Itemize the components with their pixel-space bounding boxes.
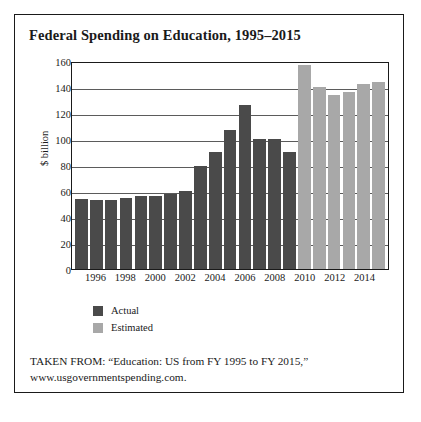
legend-label: Actual [111,305,139,316]
x-tick-label: 2010 [294,272,315,283]
bar-series [72,63,388,269]
chart-title: Federal Spending on Education, 1995–2015 [29,27,301,44]
bar [328,95,341,269]
y-tick-label: 20 [31,239,71,250]
figure-panel: Federal Spending on Education, 1995–2015… [14,14,404,393]
y-tick-label: 120 [31,109,71,120]
x-tick-label: 2002 [175,272,196,283]
bar [105,200,118,269]
x-tick-label: 2008 [264,272,285,283]
y-tick-label: 80 [31,161,71,172]
bar [194,166,207,269]
plot-area: 020406080100120140160 [71,62,389,270]
x-tick-label: 2000 [145,272,166,283]
bar [313,87,326,269]
source-note: TAKEN FROM: “Education: US from FY 1995 … [30,353,390,385]
bar [253,139,266,269]
bar [343,92,356,269]
legend-item: Actual [93,304,153,317]
chart-legend: ActualEstimated [93,304,153,338]
y-tick-label: 140 [31,83,71,94]
x-axis-ticks: 1996199820002002200420062008201020122014 [71,272,389,288]
bar [372,82,385,269]
bar [268,139,281,269]
legend-swatch-icon [93,323,103,333]
legend-item: Estimated [93,321,153,334]
plot-frame [71,62,389,270]
bar [164,194,177,269]
bar [135,196,148,269]
x-tick-label: 1996 [85,272,106,283]
x-tick-label: 2006 [234,272,255,283]
bar [224,130,237,269]
legend-label: Estimated [111,322,153,333]
y-tick-label: 40 [31,213,71,224]
bar [90,200,103,269]
x-tick-label: 1998 [115,272,136,283]
bar [209,152,222,269]
bar [239,105,252,269]
bar [120,198,133,270]
bar [283,152,296,269]
bar [179,191,192,269]
bar [298,65,311,269]
y-tick-label: 60 [31,187,71,198]
bar [357,84,370,269]
bar [75,199,88,269]
y-tick-label: 160 [31,57,71,68]
x-tick-label: 2004 [205,272,226,283]
legend-swatch-icon [93,306,103,316]
x-tick-label: 2012 [324,272,345,283]
y-tick-label: 100 [31,135,71,146]
bar [149,196,162,269]
x-tick-label: 2014 [354,272,375,283]
y-tick-label: 0 [31,265,71,276]
